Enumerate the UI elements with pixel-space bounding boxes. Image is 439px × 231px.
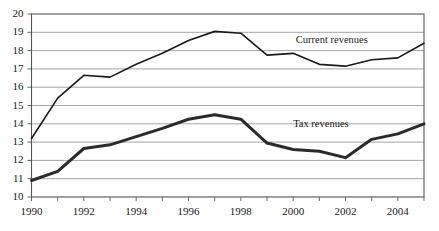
y-axis-ticks-group [28, 14, 32, 197]
series-label-1: Tax revenues [293, 118, 349, 129]
y-tick-label-15: 15 [4, 100, 24, 111]
data-series-group [32, 31, 425, 180]
x-tick-label-2002: 2002 [326, 206, 366, 217]
y-tick-label-17: 17 [4, 63, 24, 74]
y-tick-label-12: 12 [4, 154, 24, 165]
x-tick-label-1990: 1990 [12, 206, 52, 217]
x-tick-label-1996: 1996 [169, 206, 209, 217]
series-label-0: Current revenues [296, 34, 368, 45]
y-tick-label-19: 19 [4, 26, 24, 37]
chart-canvas [0, 0, 439, 231]
x-tick-label-1994: 1994 [116, 206, 156, 217]
x-tick-label-1998: 1998 [221, 206, 261, 217]
revenues-line-chart: 2019181716151413121110 19901992199419961… [0, 0, 439, 231]
x-tick-label-2004: 2004 [378, 206, 418, 217]
y-tick-label-16: 16 [4, 81, 24, 92]
x-tick-label-1992: 1992 [64, 206, 104, 217]
gridlines-group [32, 32, 425, 178]
y-tick-label-13: 13 [4, 136, 24, 147]
x-tick-label-2000: 2000 [273, 206, 313, 217]
y-tick-label-11: 11 [4, 173, 24, 184]
series-line-0 [32, 31, 425, 138]
y-tick-label-10: 10 [4, 191, 24, 202]
series-line-1 [32, 115, 425, 181]
y-tick-label-18: 18 [4, 45, 24, 56]
y-tick-label-14: 14 [4, 118, 24, 129]
y-tick-label-20: 20 [4, 8, 24, 19]
x-axis-ticks-group [32, 197, 425, 201]
